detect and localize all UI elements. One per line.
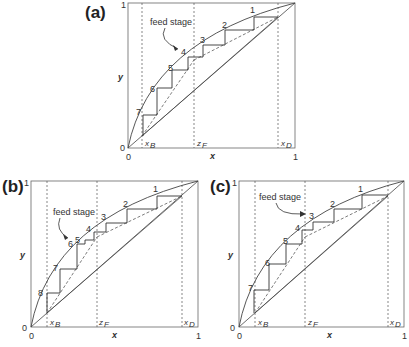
stage-label: 4 (181, 47, 186, 57)
svg-text:y: y (19, 250, 26, 260)
feed-stage-annotation: feed stage (150, 17, 192, 27)
svg-text:z: z (196, 139, 201, 148)
panel-a: (a) 1 2 3 4 5 6 7 feed stage 1 0 0 1 y x… (85, 0, 298, 162)
svg-text:1: 1 (196, 331, 201, 341)
svg-text:2: 2 (123, 199, 128, 209)
svg-text:D: D (395, 320, 401, 329)
panel-c: (c) 1 2 3 4 5 6 7 feed stage 1 0 0 1 y x… (210, 177, 407, 341)
svg-text:0: 0 (22, 323, 27, 333)
svg-text:1: 1 (232, 178, 237, 188)
svg-text:5: 5 (283, 236, 288, 246)
svg-text:F: F (313, 320, 319, 329)
stage-label: 2 (222, 20, 227, 30)
stage-label: 7 (136, 107, 141, 117)
svg-text:4: 4 (86, 224, 91, 234)
svg-text:feed stage: feed stage (259, 192, 301, 202)
mccabe-thiele-figure: (a) 1 2 3 4 5 6 7 feed stage 1 0 0 1 y x… (0, 0, 409, 347)
svg-text:4: 4 (295, 223, 300, 233)
svg-text:B: B (55, 320, 61, 329)
svg-text:8: 8 (38, 288, 43, 298)
svg-text:F: F (202, 141, 208, 150)
svg-text:0: 0 (237, 331, 242, 341)
svg-text:0: 0 (230, 323, 235, 333)
svg-text:D: D (189, 320, 195, 329)
stage-label: 6 (150, 84, 155, 94)
svg-text:B: B (150, 141, 156, 150)
svg-text:1: 1 (358, 184, 363, 194)
svg-text:1: 1 (121, 0, 126, 10)
svg-text:B: B (263, 320, 269, 329)
svg-text:1: 1 (402, 331, 407, 341)
svg-text:0: 0 (120, 143, 125, 153)
panel-b-label: (b) (2, 177, 24, 196)
svg-text:x: x (111, 330, 118, 340)
svg-text:1: 1 (153, 184, 158, 194)
panel-c-label: (c) (210, 177, 231, 196)
svg-text:z: z (307, 318, 312, 327)
svg-text:6: 6 (68, 239, 73, 249)
svg-text:5: 5 (75, 235, 80, 245)
svg-text:1: 1 (24, 178, 29, 188)
svg-text:3: 3 (309, 211, 314, 221)
stage-label: 5 (168, 63, 173, 73)
svg-text:3: 3 (101, 212, 106, 222)
stage-label: 1 (250, 5, 255, 15)
panel-a-label: (a) (85, 3, 106, 22)
stage-label: 3 (200, 35, 205, 45)
svg-text:1: 1 (293, 152, 298, 162)
svg-text:x: x (326, 330, 333, 340)
svg-text:z: z (98, 318, 103, 327)
svg-text:2: 2 (330, 199, 335, 209)
svg-text:x: x (209, 151, 216, 161)
svg-text:F: F (104, 320, 110, 329)
svg-text:6: 6 (265, 258, 270, 268)
svg-text:7: 7 (248, 283, 253, 293)
svg-text:feed stage: feed stage (53, 207, 95, 217)
svg-text:y: y (117, 72, 124, 82)
svg-text:7: 7 (53, 263, 58, 273)
svg-text:D: D (286, 141, 292, 150)
svg-text:y: y (227, 250, 234, 260)
panel-b: (b) 1 2 3 4 5 6 7 8 feed stage 1 0 0 1 y… (2, 177, 201, 341)
svg-text:0: 0 (29, 331, 34, 341)
svg-text:0: 0 (126, 152, 131, 162)
